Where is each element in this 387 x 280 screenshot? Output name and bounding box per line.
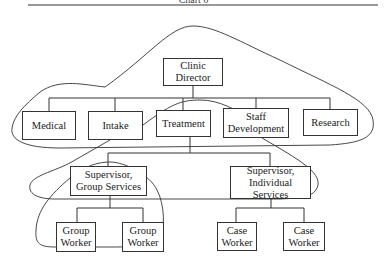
node-supervisor-individual-services: Supervisor, Individual Services — [230, 166, 311, 199]
node-group-worker-2: Group Worker — [122, 222, 164, 252]
node-research: Research — [303, 109, 358, 136]
node-treatment: Treatment — [156, 110, 211, 137]
node-case-worker-1: Case Worker — [217, 222, 257, 251]
node-case-worker-2: Case Worker — [283, 222, 325, 251]
node-intake: Intake — [88, 111, 143, 140]
node-group-worker-1: Group Worker — [56, 222, 96, 252]
node-staff-development: Staff Development — [223, 108, 289, 138]
node-clinic-director: Clinic Director — [163, 58, 223, 86]
node-supervisor-group-services: Supervisor, Group Services — [70, 166, 147, 196]
node-medical: Medical — [22, 111, 76, 140]
